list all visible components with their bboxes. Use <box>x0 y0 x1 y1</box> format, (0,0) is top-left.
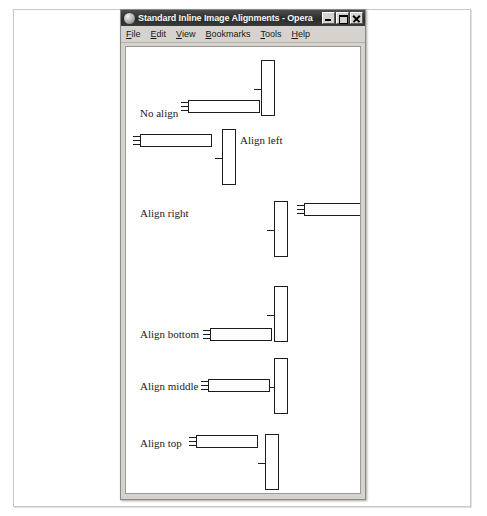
menu-item-bookmarks[interactable]: Bookmarks <box>205 26 256 43</box>
window-controls <box>322 12 363 24</box>
broken-image-placeholder-vertical[interactable] <box>265 434 279 490</box>
placeholder-tick-icon <box>133 140 141 141</box>
broken-image-placeholder-vertical[interactable] <box>261 60 275 116</box>
placeholder-tick-icon <box>203 338 211 339</box>
close-button[interactable] <box>350 12 363 24</box>
placeholder-tick-icon <box>189 441 197 442</box>
placeholder-tick-icon <box>258 463 266 464</box>
placeholder-tick-icon <box>203 330 211 331</box>
placeholder-tick-icon <box>267 315 275 316</box>
placeholder-tick-icon <box>297 209 305 210</box>
placeholder-tick-icon <box>133 144 141 145</box>
menu-bar: File Edit View Bookmarks Tools Help <box>121 26 365 43</box>
broken-image-placeholder-horizontal[interactable] <box>188 100 260 113</box>
placeholder-tick-icon <box>181 102 189 103</box>
placeholder-tick-icon <box>254 89 262 90</box>
page-content: No align Align left Align right <box>126 47 360 493</box>
placeholder-tick-icon <box>133 136 141 137</box>
window-title: Standard Inline Image Alignments - Opera <box>138 10 322 26</box>
broken-image-placeholder-vertical[interactable] <box>274 286 288 342</box>
minimize-button[interactable] <box>322 12 335 24</box>
broken-image-placeholder-vertical[interactable] <box>274 201 288 257</box>
placeholder-tick-icon <box>201 385 209 386</box>
broken-image-placeholder-horizontal[interactable] <box>304 203 361 216</box>
menu-item-file[interactable]: File <box>126 26 147 43</box>
browser-viewport: No align Align left Align right <box>125 46 361 494</box>
placeholder-tick-icon <box>189 445 197 446</box>
placeholder-tick-icon <box>203 334 211 335</box>
label-align-right: Align right <box>140 207 189 219</box>
placeholder-tick-icon <box>201 381 209 382</box>
title-bar[interactable]: Standard Inline Image Alignments - Opera <box>121 10 365 26</box>
broken-image-placeholder-horizontal[interactable] <box>196 435 258 448</box>
maximize-button[interactable] <box>336 12 349 24</box>
broken-image-placeholder-horizontal[interactable] <box>210 328 272 341</box>
opera-logo-icon <box>124 13 135 24</box>
broken-image-placeholder-vertical[interactable] <box>274 358 288 414</box>
placeholder-tick-icon <box>189 437 197 438</box>
label-align-middle: Align middle <box>140 380 198 392</box>
placeholder-tick-icon <box>181 106 189 107</box>
broken-image-placeholder-horizontal[interactable] <box>208 379 270 392</box>
placeholder-tick-icon <box>267 230 275 231</box>
label-no-align: No align <box>140 107 178 119</box>
browser-window: Standard Inline Image Alignments - Opera… <box>120 9 366 500</box>
label-align-top: Align top <box>140 437 182 449</box>
placeholder-tick-icon <box>181 110 189 111</box>
broken-image-placeholder-horizontal[interactable] <box>140 134 212 147</box>
placeholder-tick-icon <box>297 213 305 214</box>
menu-item-help[interactable]: Help <box>291 26 316 43</box>
placeholder-tick-icon <box>215 158 223 159</box>
menu-item-edit[interactable]: Edit <box>151 26 173 43</box>
label-align-left: Align left <box>240 134 282 146</box>
broken-image-placeholder-vertical[interactable] <box>222 129 236 185</box>
menu-item-view[interactable]: View <box>176 26 201 43</box>
label-align-bottom: Align bottom <box>140 328 199 340</box>
placeholder-tick-icon <box>297 205 305 206</box>
placeholder-tick-icon <box>201 389 209 390</box>
menu-item-tools[interactable]: Tools <box>260 26 287 43</box>
